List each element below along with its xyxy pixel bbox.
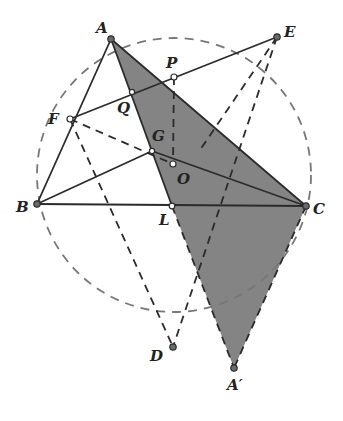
point-A <box>108 36 114 42</box>
label-F: F <box>47 110 60 128</box>
label-B: B <box>15 198 29 216</box>
label-Q: Q <box>117 99 130 117</box>
label-A: A <box>94 19 108 37</box>
point-A-prime <box>231 365 237 371</box>
point-L <box>169 203 175 209</box>
point-B <box>34 201 40 207</box>
label-P: P <box>165 54 178 72</box>
point-C <box>303 203 309 209</box>
label-O: O <box>177 170 190 188</box>
label-A-prime: A′ <box>225 376 243 394</box>
point-G <box>149 148 154 153</box>
point-Q <box>129 89 134 94</box>
label-D: D <box>149 347 163 365</box>
segment-BG <box>37 151 152 204</box>
geometry-figure: A E P Q F G O B L C D A′ <box>0 0 343 421</box>
label-G: G <box>152 127 165 145</box>
label-L: L <box>158 211 170 229</box>
point-E <box>274 34 280 40</box>
diagram-canvas: A E P Q F G O B L C D A′ <box>0 0 343 421</box>
point-O <box>170 161 176 167</box>
segment-PO <box>173 77 174 164</box>
point-P <box>171 74 177 80</box>
label-C: C <box>313 200 325 218</box>
point-D <box>170 344 176 350</box>
label-E: E <box>283 23 296 41</box>
shaded-triangle-region <box>111 39 306 368</box>
point-F <box>67 116 73 122</box>
